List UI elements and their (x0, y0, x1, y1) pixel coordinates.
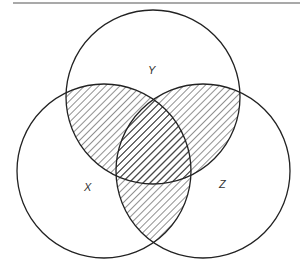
venn-diagram: Y X Z (0, 0, 303, 264)
label-z: Z (218, 178, 227, 190)
venn-svg: Y X Z (0, 0, 303, 264)
label-y: Y (148, 64, 156, 76)
label-x: X (83, 181, 92, 193)
